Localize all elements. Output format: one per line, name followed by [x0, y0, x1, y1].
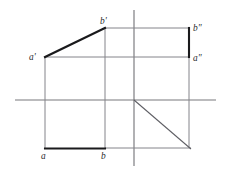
projection-canvas: a' b' b" a" a b	[0, 0, 227, 175]
projection-drawing: a' b' b" a" a b	[0, 0, 227, 175]
mitre-line-45deg	[134, 100, 191, 149]
label-a-top: a	[41, 151, 46, 161]
label-b-front: b'	[100, 16, 108, 26]
frontal-projection-segment	[45, 28, 105, 57]
label-a-front: a'	[29, 52, 37, 62]
label-a-profile: a"	[193, 53, 202, 63]
label-b-profile: b"	[193, 23, 202, 33]
label-b-top: b	[101, 151, 106, 161]
